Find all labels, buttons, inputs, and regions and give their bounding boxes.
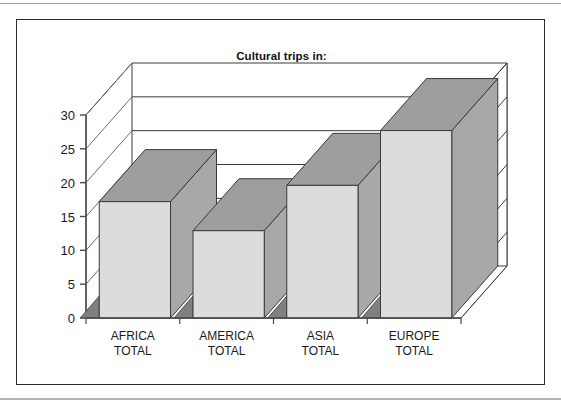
y-axis-tick-label: 0 [68,311,75,326]
y-axis-tick-label: 20 [61,176,75,191]
x-axis-category-label: TOTAL [302,344,340,358]
x-axis-category-label: ASIA [307,329,334,343]
figure-frame: Cultural trips in: 302520151050 AFRICATO… [16,19,545,385]
bar-chart-3d: 302520151050 AFRICATOTALAMERICATOTALASIA… [17,20,546,386]
x-axis: AFRICATOTALAMERICATOTALASIATOTALEUROPETO… [86,318,461,358]
x-axis-category-label: AFRICA [111,329,155,343]
y-axis-tick-label: 5 [68,277,75,292]
y-axis-tick-label: 25 [61,142,75,157]
x-axis-category-label: AMERICA [199,329,254,343]
y-axis-tick-label: 15 [61,210,75,225]
x-axis-category-label: TOTAL [395,344,433,358]
y-axis: 302520151050 [61,108,86,326]
chart-plot-area: 302520151050 AFRICATOTALAMERICATOTALASIA… [17,20,546,386]
scan-artifact-line-bottom [0,398,561,400]
y-axis-tick-label: 10 [61,243,75,258]
x-axis-category-label: TOTAL [208,344,246,358]
x-axis-category-label: TOTAL [114,344,152,358]
y-axis-tick-label: 30 [61,108,75,123]
scan-artifact-line-top [0,3,561,4]
x-axis-category-label: EUROPE [389,329,440,343]
